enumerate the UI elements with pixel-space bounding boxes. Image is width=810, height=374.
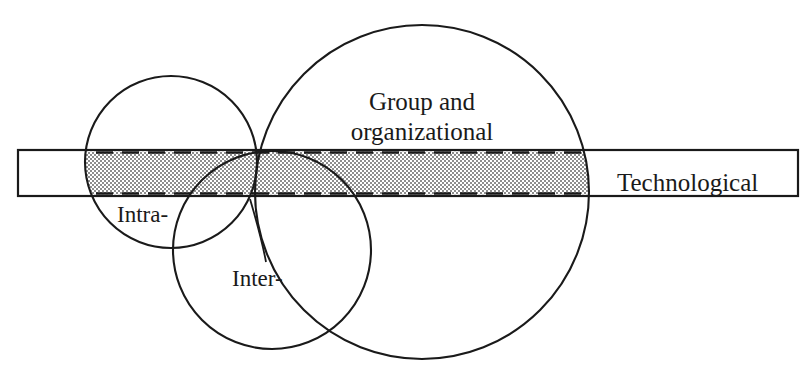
label-group-and-organizational-line1: Group and [369,88,476,115]
label-technological: Technological [617,169,758,196]
label-inter: Inter- [232,266,283,291]
inter-leader-line [250,199,266,262]
diagram-figure: Group and organizational Technological I… [0,0,810,374]
diagram-canvas: Group and organizational Technological I… [0,0,810,374]
label-group-and-organizational-line2: organizational [351,118,494,145]
label-intra: Intra- [117,202,168,227]
